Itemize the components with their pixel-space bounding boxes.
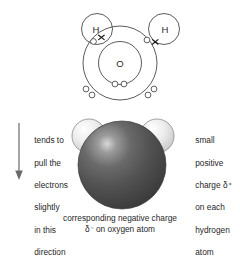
partial-positive-annotation: small positive charge δ⁺ on each hydroge… bbox=[186, 124, 232, 259]
oxygen-nucleus-label: O bbox=[116, 58, 123, 69]
hydrogen-bonding-cross-right bbox=[152, 40, 158, 45]
ann-right-line-6: atom bbox=[195, 247, 213, 257]
electron-pull-annotation: tends to pull the electrons slightly in … bbox=[25, 124, 68, 259]
oxygen-bonding-electron-left bbox=[91, 39, 97, 45]
ann-right-line-1: small bbox=[195, 135, 214, 145]
ann-left-line-6: direction bbox=[34, 247, 65, 257]
oxygen-bonding-electron-right bbox=[144, 37, 150, 43]
oxygen-sphere bbox=[78, 121, 166, 209]
caption-line-2: δ⁻ on oxygen atom bbox=[0, 224, 240, 235]
hydrogen-left-label: H bbox=[93, 24, 100, 35]
ann-right-line-2: positive bbox=[195, 158, 223, 168]
bond-pair-left bbox=[91, 35, 105, 44]
ann-left-line-3: electrons bbox=[34, 180, 68, 190]
ann-left-line-4: slightly bbox=[34, 202, 59, 212]
ann-left-line-1: tends to bbox=[34, 135, 64, 145]
inner-shell-electron-pair bbox=[112, 81, 127, 87]
hydrogen-bonding-cross-left bbox=[99, 35, 105, 39]
ann-right-line-4: on each bbox=[195, 202, 225, 212]
caption-line-1: corresponding negative charge bbox=[0, 213, 240, 224]
lewis-dot-diagram: O H H bbox=[0, 0, 240, 118]
ann-left-line-2: pull the bbox=[34, 158, 61, 168]
ann-right-line-3: charge δ⁺ bbox=[195, 180, 231, 190]
hydrogen-right-label: H bbox=[162, 24, 169, 35]
partial-negative-caption: corresponding negative charge δ⁻ on oxyg… bbox=[0, 213, 240, 236]
